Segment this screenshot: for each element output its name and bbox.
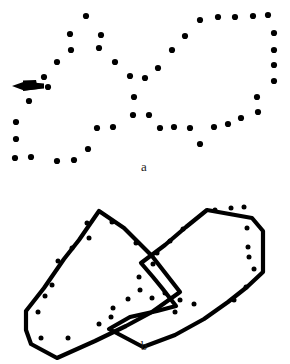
contour-dot — [39, 336, 44, 341]
contour-dot — [265, 12, 271, 18]
contour-dot — [112, 59, 118, 65]
contour-dot — [146, 112, 152, 118]
contour-dot — [173, 310, 178, 315]
pointer-arrow-icon — [12, 80, 44, 91]
contour-dot — [96, 45, 102, 51]
contour-dot — [254, 94, 260, 100]
contour-dot — [178, 298, 183, 303]
contour-dot — [110, 220, 115, 225]
contour-dot — [13, 119, 19, 125]
contour-dot — [142, 75, 148, 81]
contour-dot — [215, 14, 221, 20]
dotted-contour-figure: a b — [0, 0, 290, 364]
contour-dot — [242, 205, 247, 210]
contour-dot — [197, 17, 203, 23]
contour-dot — [85, 146, 91, 152]
contour-dot — [66, 336, 71, 341]
contour-dot — [26, 98, 32, 104]
contour-dot — [225, 121, 231, 127]
contour-dot — [134, 241, 139, 246]
panel-label-a: a — [134, 160, 154, 173]
contour-dot — [155, 65, 161, 71]
contour-dot — [163, 291, 168, 296]
contour-dot — [232, 298, 237, 303]
contour-dot — [151, 262, 156, 267]
panel-a — [0, 0, 290, 182]
contour-dot — [97, 322, 102, 327]
contour-dot — [109, 315, 114, 320]
contour-dot — [155, 251, 160, 256]
contour-dot — [54, 158, 60, 164]
panel-b-canvas — [0, 182, 290, 364]
contour-dot — [246, 245, 251, 250]
contour-dot — [192, 302, 197, 307]
contour-dot — [110, 124, 116, 130]
contour-dot — [252, 267, 257, 272]
contour-dot — [137, 275, 142, 280]
contour-dot — [187, 125, 193, 131]
contour-dot — [229, 206, 234, 211]
contour-dot — [56, 259, 61, 264]
contour-dot — [197, 141, 203, 147]
contour-dot — [98, 32, 104, 38]
contour-dot — [157, 125, 163, 131]
contour-dot — [111, 306, 116, 311]
contour-dot — [244, 285, 249, 290]
contour-dot — [45, 84, 51, 90]
contour-dot — [36, 310, 41, 315]
contour-dot — [171, 124, 177, 130]
contour-dot — [85, 221, 90, 226]
contour-dot — [169, 47, 175, 53]
contour-dot — [50, 283, 55, 288]
contour-dot — [181, 227, 186, 232]
contour-dot — [13, 136, 19, 142]
contour-dot — [271, 62, 277, 68]
contour-dot — [238, 115, 244, 121]
contour-dot — [127, 73, 133, 79]
contour-dot — [271, 78, 277, 84]
contour-dot — [12, 155, 18, 161]
panel-a-canvas — [0, 0, 290, 182]
contour-dot — [131, 94, 137, 100]
contour-dot — [232, 14, 238, 20]
contour-dot — [68, 47, 74, 53]
contour-dot — [213, 208, 218, 213]
contour-dot — [150, 296, 155, 301]
contour-dot — [271, 30, 277, 36]
contour-polygon-right — [109, 210, 263, 347]
contour-dot — [83, 13, 89, 19]
contour-dot — [250, 13, 256, 19]
contour-dot — [67, 31, 73, 37]
contour-dot — [182, 33, 188, 39]
contour-dot — [43, 294, 48, 299]
contour-dot — [211, 124, 217, 130]
contour-dot — [168, 239, 173, 244]
contour-dot — [126, 297, 131, 302]
contour-dot — [94, 125, 100, 131]
contour-dot — [271, 47, 277, 53]
contour-dot — [255, 109, 261, 115]
contour-dot — [130, 112, 136, 118]
contour-dot — [138, 288, 143, 293]
contour-dot — [70, 246, 75, 251]
contour-dot — [54, 59, 60, 65]
panel-b — [0, 182, 290, 364]
contour-dot — [87, 236, 92, 241]
contour-dot — [28, 154, 34, 160]
contour-dot — [71, 157, 77, 163]
contour-dot — [41, 74, 47, 80]
panel-label-b: b — [134, 339, 154, 352]
contour-dot — [245, 226, 250, 231]
contour-dot — [247, 255, 252, 260]
